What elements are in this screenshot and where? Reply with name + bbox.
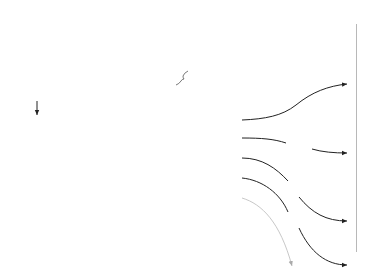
colorbar-gradient	[357, 24, 376, 252]
band-2-arrow	[242, 138, 347, 153]
faded-arrow	[242, 198, 292, 266]
brace-icon	[176, 71, 188, 85]
band-3-arrow	[242, 158, 347, 221]
band-arrows	[242, 84, 347, 266]
wavelength-colorbar	[357, 24, 377, 252]
band-4-arrow	[242, 178, 347, 265]
raster-stack-diagram	[0, 0, 390, 276]
band-1-arrow	[242, 84, 347, 120]
pixel-size-annotation	[176, 71, 188, 85]
